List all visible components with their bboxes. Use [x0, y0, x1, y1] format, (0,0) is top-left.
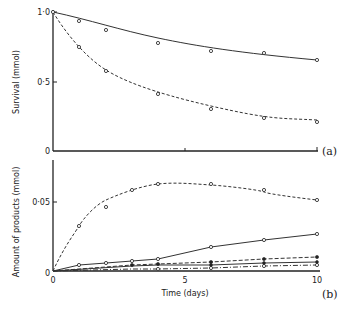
series-dashed [53, 12, 317, 120]
data-markers [51, 10, 318, 123]
x-tick-label: 0 [50, 276, 55, 285]
panel-label: (b) [322, 288, 338, 301]
y-tick-label: 0 [45, 269, 50, 278]
panel-a: 1·0 0·5 0 Survival (mmol) (a) [12, 8, 337, 158]
x-tick-label: 5 [182, 276, 187, 285]
panel-label: (a) [322, 145, 337, 158]
figure: 1·0 0·5 0 Survival (mmol) (a) 0·05 0 0 5… [0, 0, 353, 310]
y-axis-label: Amount of products (mmol) [12, 167, 21, 278]
y-tick-label: 0·05 [32, 198, 50, 207]
y-tick-label: 1·0 [37, 8, 50, 17]
y-axis-label: Survival (mmol) [12, 50, 21, 114]
y-tick-label: 0 [45, 147, 50, 156]
x-tick-label: 10 [312, 276, 322, 285]
panel-b: 0·05 0 0 5 10 Time (days) Amount of prod… [12, 160, 338, 301]
x-axis-label: Time (days) [160, 289, 208, 298]
data-markers [77, 182, 318, 270]
series-solid [53, 12, 317, 60]
y-tick-label: 0·5 [37, 78, 50, 87]
series-dashed-open [53, 183, 317, 271]
